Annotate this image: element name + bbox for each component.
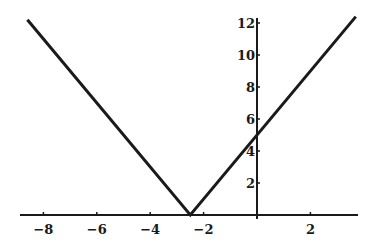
- y-tick-label: 2: [246, 176, 255, 191]
- x-tick-label: −4: [140, 222, 160, 237]
- x-tick-label: 2: [306, 222, 315, 237]
- x-tick-label: −6: [87, 222, 107, 237]
- y-tick-label: 6: [246, 112, 255, 127]
- x-tick-label: −8: [33, 222, 53, 237]
- y-tick-label: 8: [246, 80, 255, 95]
- chart: −8−6−4−22 24681012: [0, 0, 372, 246]
- abs-value-line: [27, 17, 355, 215]
- x-tick-label: −2: [194, 222, 214, 237]
- axes: [20, 18, 358, 219]
- plot-series: [27, 17, 355, 215]
- y-tick-label: 12: [237, 16, 255, 31]
- y-tick-label: 10: [237, 48, 255, 63]
